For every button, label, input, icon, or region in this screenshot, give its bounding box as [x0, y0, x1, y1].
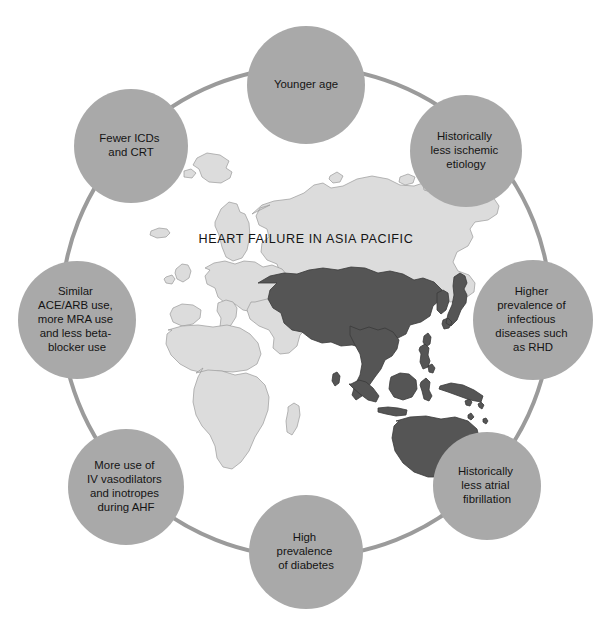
svg-text:Younger age: Younger age — [274, 78, 338, 90]
region-madagascar — [286, 403, 300, 435]
region-java — [378, 407, 407, 416]
node-historically-less-atrial-fibrillation[interactable]: Historically less atrial fibrillation — [433, 432, 541, 540]
node-line: prevalence of — [497, 299, 566, 311]
node-line: less ischemic — [431, 144, 499, 156]
infographic-asia-pacific-heart-failure: HEART FAILURE IN ASIA PACIFIC Younger ag… — [0, 0, 611, 621]
node-higher-prevalence-infectious-rhd[interactable]: Higher prevalence of infectious diseases… — [473, 260, 593, 380]
node-line: ACE/ARB use, — [38, 299, 113, 311]
node-line: Historically — [458, 465, 513, 477]
node-line: and inotropes — [90, 487, 159, 499]
node-high-prevalence-of-diabetes[interactable]: High prevalence of diabetes — [249, 495, 363, 609]
region-subsaharan-africa — [193, 368, 269, 469]
region-british-isles — [164, 264, 191, 284]
node-line: and less beta- — [40, 327, 112, 339]
node-line: Fewer ICDs — [99, 132, 159, 144]
node-line: during AHF — [98, 501, 155, 513]
node-line: as RHD — [513, 341, 553, 353]
node-line: more MRA use — [38, 313, 113, 325]
node-line: Higher — [515, 285, 549, 297]
node-line: diseases such — [495, 327, 567, 339]
region-philippines — [419, 344, 435, 373]
region-sulawesi — [420, 378, 432, 401]
node-line: Historically — [437, 130, 492, 142]
region-north-africa — [166, 325, 261, 373]
region-iceland — [150, 228, 170, 238]
region-svalbard — [329, 172, 343, 183]
region-pacific-islands — [465, 399, 488, 424]
node-younger-age[interactable]: Younger age — [247, 26, 365, 144]
node-line: More use of — [94, 459, 155, 471]
node-fewer-icds-and-crt[interactable]: Fewer ICDs and CRT — [74, 89, 188, 203]
region-sri-lanka — [332, 372, 340, 386]
node-line: High — [293, 531, 316, 543]
node-similar-ace-arb-mra-betablocker[interactable]: Similar ACE/ARB use, more MRA use and le… — [18, 261, 136, 379]
region-korea — [437, 290, 449, 314]
region-greenland — [184, 153, 232, 183]
node-line: IV vasodilators — [87, 473, 162, 485]
node-more-iv-vasodilators-inotropes-ahf[interactable]: More use of IV vasodilators and inotrope… — [68, 429, 184, 545]
node-line: etiology — [446, 158, 486, 170]
node-line: infectious — [507, 313, 555, 325]
node-line: and CRT — [108, 146, 153, 158]
node-line: of diabetes — [278, 559, 334, 571]
node-line: Similar — [58, 285, 93, 297]
region-iberia — [170, 304, 201, 326]
region-papua-new-guinea — [439, 383, 483, 402]
node-historically-less-ischemic-etiology[interactable]: Historically less ischemic etiology — [410, 95, 522, 207]
node-line: Younger age — [274, 78, 338, 90]
region-borneo — [389, 373, 417, 400]
node-line: less atrial — [461, 479, 509, 491]
node-line: fibrillation — [463, 493, 511, 505]
map-center-title: HEART FAILURE IN ASIA PACIFIC — [199, 232, 414, 246]
node-line: blocker use — [48, 341, 106, 353]
node-line: prevalence — [277, 545, 333, 557]
svg-text:Historically less atri: Historically less atrial fibrillation — [458, 465, 516, 505]
world-map: HEART FAILURE IN ASIA PACIFIC — [150, 153, 499, 496]
